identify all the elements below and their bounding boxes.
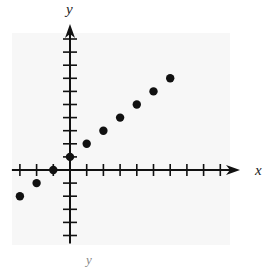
data-point bbox=[133, 100, 141, 108]
data-point bbox=[116, 113, 124, 121]
chart: x y y bbox=[0, 0, 272, 267]
data-point bbox=[66, 153, 74, 161]
y-axis-label: y bbox=[64, 1, 73, 17]
data-point bbox=[99, 127, 107, 135]
plot-background bbox=[12, 33, 230, 245]
footer-label: y bbox=[84, 252, 92, 267]
data-point bbox=[83, 140, 91, 148]
data-point bbox=[32, 179, 40, 187]
x-axis-label: x bbox=[254, 162, 262, 178]
data-point bbox=[149, 87, 157, 95]
data-point bbox=[49, 166, 57, 174]
data-point bbox=[166, 74, 174, 82]
data-point bbox=[16, 192, 24, 200]
